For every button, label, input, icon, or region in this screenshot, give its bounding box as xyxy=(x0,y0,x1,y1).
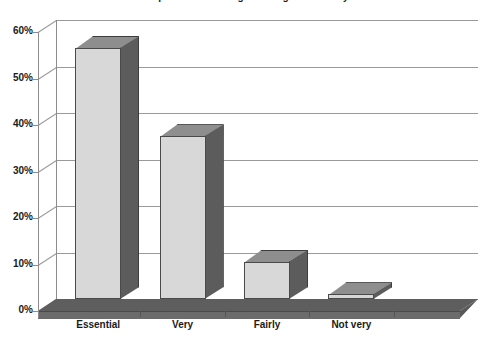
floor-top-surface xyxy=(38,299,478,311)
bar-front-face xyxy=(160,136,206,299)
y-axis-tick-label: 40% xyxy=(0,118,33,129)
y-axis-back-line xyxy=(56,20,57,306)
floor-front-face xyxy=(38,311,460,319)
bar-front-face xyxy=(328,294,374,299)
y-axis-tick-label: 0% xyxy=(0,304,33,315)
x-axis-tick xyxy=(225,311,226,317)
gridline-connector xyxy=(38,113,57,126)
x-axis-tick xyxy=(394,311,395,317)
gridline-connector xyxy=(38,20,57,33)
bar-side-face xyxy=(205,124,224,299)
plot-area: 60%50%40%30%20%10%0% EssentialVeryFairly… xyxy=(0,0,495,340)
x-axis-tick xyxy=(140,311,141,317)
bar-side-face xyxy=(120,36,139,299)
y-axis-tick-label: 20% xyxy=(0,211,33,222)
gridline-connector xyxy=(38,206,57,219)
bar-front-face xyxy=(75,48,121,299)
bar-front-face xyxy=(244,262,290,299)
gridline-connector xyxy=(38,67,57,80)
y-axis-front-line xyxy=(38,32,39,318)
gridline-connector xyxy=(38,253,57,266)
bar-chart: Importance of being able to go on holida… xyxy=(0,0,495,340)
y-axis-tick-label: 60% xyxy=(0,25,33,36)
y-axis-tick-label: 30% xyxy=(0,165,33,176)
x-axis-category-label: Not very xyxy=(301,319,401,330)
gridline-connector xyxy=(38,160,57,173)
y-axis-tick-label: 50% xyxy=(0,72,33,83)
x-axis-tick xyxy=(309,311,310,317)
y-axis-tick-label: 10% xyxy=(0,258,33,269)
gridline xyxy=(56,20,478,21)
